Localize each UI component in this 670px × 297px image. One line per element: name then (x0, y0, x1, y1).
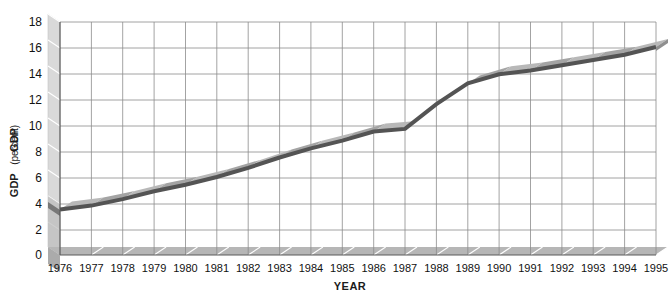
y-axis-title-group: GDP (percent) (4, 125, 21, 197)
y-tick-label: 0 (35, 248, 42, 262)
x-tick-label: 1983 (267, 262, 291, 274)
x-tick-label: 1982 (236, 262, 260, 274)
x-tick-label: 1977 (79, 262, 103, 274)
x-tick-label: 1976 (48, 262, 72, 274)
x-tick-label: 1988 (424, 262, 448, 274)
x-tick-label: 1994 (612, 262, 636, 274)
y-tick-labels: 18 16 14 12 10 8 6 4 2 0 (29, 15, 43, 262)
y-tick-label: 16 (29, 41, 43, 55)
x-tick-label: 1992 (550, 262, 574, 274)
x-axis-title: YEAR (334, 280, 367, 292)
y-axis-title-unit: (percent) (9, 125, 20, 165)
x-tick-label: 1978 (110, 262, 134, 274)
gdp-line-chart: 18 16 14 12 10 8 6 4 2 0 GDP . GDP (perc… (0, 0, 670, 297)
y-tick-label: 18 (29, 15, 43, 29)
x-tick-labels: 1976 1977 1978 1979 1980 1981 1982 1983 … (48, 262, 668, 274)
y-tick-label: 6 (35, 171, 42, 185)
y-tick-label: 14 (29, 67, 43, 81)
x-tick-label: 1993 (581, 262, 605, 274)
x-tick-label: 1990 (487, 262, 511, 274)
svg-text:GDP (percent): GDP (percent) (4, 125, 21, 197)
chart-canvas: 18 16 14 12 10 8 6 4 2 0 GDP . GDP (perc… (0, 0, 670, 297)
x-tick-label: 1980 (173, 262, 197, 274)
x-tick-label: 1987 (393, 262, 417, 274)
x-tick-label: 1984 (299, 262, 323, 274)
x-tick-label: 1979 (142, 262, 166, 274)
chart-left-wall (48, 14, 60, 255)
y-tick-label: 2 (35, 223, 42, 237)
y-axis-title-label: GDP (8, 173, 20, 197)
plot-background (60, 22, 656, 255)
x-tick-label: 1981 (205, 262, 229, 274)
y-tick-label: 12 (29, 93, 43, 107)
x-tick-label: 1989 (456, 262, 480, 274)
x-tick-label: 1985 (330, 262, 354, 274)
y-tick-label: 8 (35, 145, 42, 159)
x-tick-label: 1991 (518, 262, 542, 274)
y-tick-label: 10 (29, 119, 43, 133)
y-tick-label: 4 (35, 197, 42, 211)
x-tick-label: 1986 (361, 262, 385, 274)
x-tick-label: 1995 (644, 262, 668, 274)
